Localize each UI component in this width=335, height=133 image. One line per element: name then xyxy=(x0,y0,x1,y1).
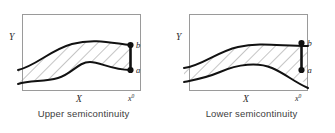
point-b-label: b xyxy=(136,40,140,50)
caption-lower-semicontinuity: Lower semicontinuity xyxy=(168,108,335,120)
point-a-marker xyxy=(298,67,304,73)
point-b-marker xyxy=(127,42,133,48)
point-b-marker xyxy=(298,40,304,46)
y-axis-label: Y xyxy=(176,32,183,42)
hatched-region xyxy=(0,0,167,110)
x0-superscript: 0 xyxy=(299,93,302,99)
x-axis-label: X xyxy=(242,94,250,104)
point-b-label: b xyxy=(308,38,312,48)
semicontinuity-figure: b a Y X x0 Upper semicontinuity xyxy=(0,0,335,133)
panel-lower-plot: b a Y X x0 xyxy=(168,0,335,110)
x0-axis-label: x0 xyxy=(127,93,135,103)
panel-upper-semicontinuity: b a Y X x0 Upper semicontinuity xyxy=(0,0,167,133)
x0-superscript: 0 xyxy=(132,93,135,99)
hatched-region xyxy=(168,0,335,110)
caption-upper-semicontinuity: Upper semicontinuity xyxy=(0,108,167,120)
panel-upper-plot: b a Y X x0 xyxy=(0,0,167,110)
y-axis-label: Y xyxy=(9,32,16,42)
point-a-marker xyxy=(127,67,133,73)
x-axis-label: X xyxy=(75,94,83,104)
point-a-label: a xyxy=(136,65,140,75)
panel-lower-semicontinuity: b a Y X x0 Lower semicontinuity xyxy=(168,0,335,133)
x0-axis-label: x0 xyxy=(294,93,302,103)
point-a-label: a xyxy=(308,65,312,75)
